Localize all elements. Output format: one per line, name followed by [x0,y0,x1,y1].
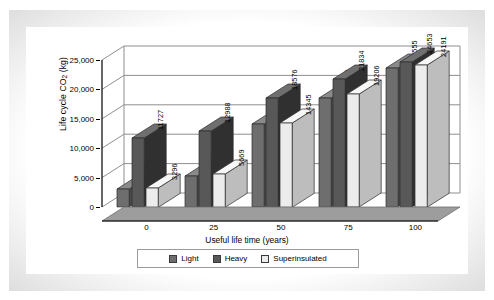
bar [146,188,158,207]
bar [199,131,211,207]
bar [132,138,144,207]
y-axis-tick-mark [96,119,100,120]
y-axis-tick-mark [96,148,100,149]
bar [252,124,264,207]
bar-value-label: 18576 [290,69,299,90]
floor-plane [102,207,438,221]
x-axis-title: Useful life time (years) [26,235,468,245]
x-axis-tick-label: 50 [277,223,286,232]
x-axis-tick-label: 75 [344,223,353,232]
bar-3d-body [213,160,249,209]
bar [185,176,197,207]
bar [347,94,359,207]
y-axis-tick-labels: 05,00010,00015,00020,00025,000 [50,60,98,207]
legend-swatch-icon [169,255,177,263]
bar [415,65,427,207]
y-axis-tick-label: 20,000 [70,85,94,94]
bar-value-label: 24191 [439,36,448,57]
y-axis-tick-mark [96,60,100,61]
y-axis-tick-mark [96,89,100,90]
bar-value-label: 14345 [304,94,313,115]
x-axis-tick-label: 25 [209,223,218,232]
bar [117,189,129,207]
bar-value-label: 21834 [357,50,366,71]
bar-value-label: 12988 [223,102,232,123]
y-axis-tick-label: 10,000 [70,144,94,153]
bar [333,79,345,207]
bar-value-label: 19206 [372,65,381,86]
legend-swatch-icon [213,255,221,263]
bar-value-label: 11727 [156,110,165,130]
legend-item[interactable]: Heavy [213,254,248,263]
y-axis-tick-label: 0 [90,203,94,212]
legend-item[interactable]: Light [169,254,198,263]
bar [213,174,225,207]
y-axis-tick-label: 25,000 [70,56,94,65]
y-axis-tick-mark [96,178,100,179]
y-axis-tick-label: 15,000 [70,114,94,123]
y-axis-tick-label: 5,000 [74,173,94,182]
legend-label: Superinsulated [273,254,326,263]
bar-3d-body [280,109,316,209]
x-axis-tick-label: 0 [144,223,148,232]
bar-3d-body [347,80,383,209]
x-axis-tick-label: 100 [409,223,422,232]
chart-legend: LightHeavySuperinsulated [137,249,359,268]
bar-3d-body [415,51,451,209]
legend-swatch-icon [261,255,269,263]
bar [386,68,398,207]
bar-value-label: 5669 [237,149,246,166]
y-axis-tick-mark [96,207,100,208]
legend-label: Heavy [225,254,248,263]
legend-item[interactable]: Superinsulated [261,254,326,263]
legend-label: Light [181,254,198,263]
bar [280,123,292,207]
plot-area: 3050117273296532012988566914095185761434… [102,60,438,207]
bar-value-label: 3296 [170,163,179,180]
bar [400,62,412,207]
bar [319,98,331,207]
screenshot-root: Life cycle CO2 (kg) 05,00010,00015,00020… [0,0,494,300]
bar [266,98,278,207]
chart-card: Life cycle CO2 (kg) 05,00010,00015,00020… [26,27,468,274]
